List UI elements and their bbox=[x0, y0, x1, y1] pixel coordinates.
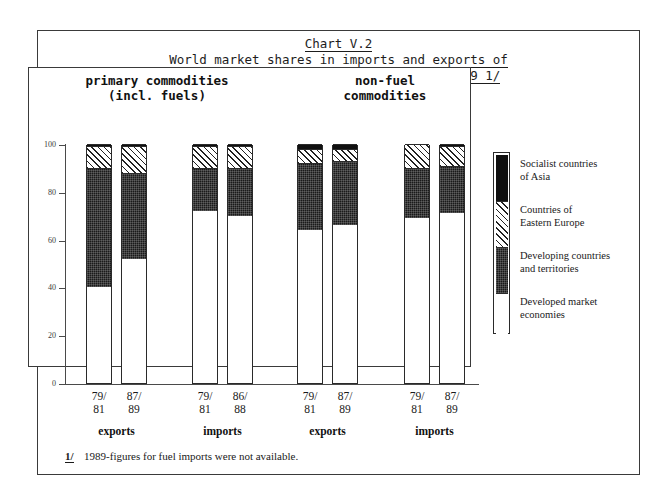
bar-segment-socialist-asia bbox=[122, 144, 146, 146]
y-tick-label-40: 40 bbox=[34, 283, 56, 292]
x-period-bottom: 81 bbox=[397, 403, 437, 416]
y-tick-20 bbox=[59, 336, 65, 337]
y-tick-label-0: 0 bbox=[34, 379, 56, 388]
bar-segment-eastern-europe bbox=[405, 144, 429, 168]
bar-segment-developing-countries bbox=[228, 168, 252, 216]
bar-segment-eastern-europe bbox=[440, 146, 464, 165]
bar-segment-developing-countries bbox=[87, 168, 111, 288]
bar-segment-developed-market-economies bbox=[440, 213, 464, 383]
stacked-bar bbox=[297, 145, 323, 384]
x-period-label: 87/89 bbox=[325, 390, 365, 416]
legend-swatch-developed bbox=[496, 293, 508, 334]
bar-segment-developed-market-economies bbox=[298, 230, 322, 383]
x-axis-line bbox=[65, 384, 479, 385]
y-tick-40 bbox=[59, 288, 65, 289]
stacked-bar bbox=[439, 145, 465, 384]
y-tick-label-60: 60 bbox=[34, 236, 56, 245]
x-period-top: 87/ bbox=[325, 390, 365, 403]
stacked-bar bbox=[121, 145, 147, 384]
bar-segment-developing-countries bbox=[405, 168, 429, 218]
bar-segment-developing-countries bbox=[333, 161, 357, 226]
x-period-bottom: 88 bbox=[220, 403, 260, 416]
legend-swatch-developing bbox=[496, 247, 508, 293]
x-period-top: 87/ bbox=[432, 390, 472, 403]
group-label-imports: imports bbox=[168, 425, 278, 437]
bar-segment-developed-market-economies bbox=[87, 287, 111, 383]
bar-segment-socialist-asia bbox=[87, 144, 111, 146]
x-period-top: 87/ bbox=[114, 390, 154, 403]
bar-segment-developing-countries bbox=[122, 173, 146, 259]
x-period-label: 79/81 bbox=[79, 390, 119, 416]
x-period-label: 79/81 bbox=[397, 390, 437, 416]
y-tick-label-20: 20 bbox=[34, 331, 56, 340]
x-period-label: 79/81 bbox=[185, 390, 225, 416]
bar-segment-developing-countries bbox=[298, 163, 322, 230]
x-period-bottom: 81 bbox=[290, 403, 330, 416]
legend-swatch-eeurope bbox=[496, 201, 508, 247]
x-period-label: 79/81 bbox=[290, 390, 330, 416]
bar-segment-eastern-europe bbox=[193, 146, 217, 168]
bar-segment-developed-market-economies bbox=[333, 225, 357, 383]
x-period-top: 79/ bbox=[397, 390, 437, 403]
footnote-marker: 1/ bbox=[65, 450, 74, 463]
bar-segment-socialist-asia bbox=[298, 144, 322, 149]
bar-segment-developed-market-economies bbox=[228, 216, 252, 383]
bar-segment-developed-market-economies bbox=[405, 218, 429, 383]
legend-label-developed: Developed market economies bbox=[520, 296, 642, 321]
group-label-exports: exports bbox=[273, 425, 383, 437]
y-tick-0 bbox=[59, 384, 65, 385]
footnote-text: 1989-figures for fuel imports were not a… bbox=[84, 450, 298, 462]
bar-segment-developing-countries bbox=[193, 168, 217, 211]
group-label-imports: imports bbox=[380, 425, 490, 437]
y-tick-80 bbox=[59, 193, 65, 194]
x-period-bottom: 81 bbox=[185, 403, 225, 416]
bar-segment-socialist-asia bbox=[228, 144, 252, 146]
group-header-primary-commodities: primary commodities (incl. fuels) bbox=[52, 74, 262, 103]
legend-swatch-bar bbox=[493, 152, 510, 334]
stacked-bar bbox=[86, 145, 112, 384]
x-period-label: 87/89 bbox=[114, 390, 154, 416]
bar-segment-eastern-europe bbox=[228, 146, 252, 168]
chart-title-line-2: World market shares in imports and expor… bbox=[169, 52, 508, 68]
chart-footnote: 1/ 1989-figures for fuel imports were no… bbox=[65, 450, 625, 462]
legend-label-asia: Socialist countries of Asia bbox=[520, 158, 642, 183]
x-period-top: 79/ bbox=[185, 390, 225, 403]
chart-legend: Socialist countries of AsiaCountries of … bbox=[490, 150, 640, 340]
legend-swatch-asia bbox=[496, 155, 508, 201]
y-tick-60 bbox=[59, 241, 65, 242]
y-tick-label-100: 100 bbox=[34, 140, 56, 149]
bar-segment-socialist-asia bbox=[333, 144, 357, 149]
bar-segment-developing-countries bbox=[440, 166, 464, 214]
legend-label-developing: Developing countries and territories bbox=[520, 250, 642, 275]
bar-segment-socialist-asia bbox=[193, 144, 217, 146]
stacked-bar bbox=[192, 145, 218, 384]
x-period-label: 86/88 bbox=[220, 390, 260, 416]
x-period-bottom: 89 bbox=[325, 403, 365, 416]
x-period-bottom: 89 bbox=[114, 403, 154, 416]
group-label-exports: exports bbox=[62, 425, 172, 437]
stacked-bar bbox=[332, 145, 358, 384]
bar-segment-eastern-europe bbox=[298, 149, 322, 163]
x-period-top: 79/ bbox=[290, 390, 330, 403]
x-period-top: 86/ bbox=[220, 390, 260, 403]
group-header-non-fuel-commodities: non-fuel commodities bbox=[300, 74, 470, 103]
y-axis-line bbox=[65, 144, 66, 385]
stacked-bar bbox=[227, 145, 253, 384]
x-period-top: 79/ bbox=[79, 390, 119, 403]
bar-segment-developed-market-economies bbox=[122, 259, 146, 383]
x-period-label: 87/89 bbox=[432, 390, 472, 416]
x-period-bottom: 81 bbox=[79, 403, 119, 416]
x-period-bottom: 89 bbox=[432, 403, 472, 416]
bar-segment-developed-market-economies bbox=[193, 211, 217, 383]
legend-label-eeurope: Countries of Eastern Europe bbox=[520, 204, 642, 229]
bar-segment-eastern-europe bbox=[87, 146, 111, 168]
bar-segment-eastern-europe bbox=[333, 149, 357, 161]
bar-segment-socialist-asia bbox=[440, 144, 464, 146]
chart-title-line-1: Chart V.2 bbox=[305, 36, 373, 52]
y-tick-100 bbox=[59, 145, 65, 146]
stacked-bar bbox=[404, 145, 430, 384]
y-tick-label-80: 80 bbox=[34, 188, 56, 197]
bar-segment-eastern-europe bbox=[122, 146, 146, 172]
